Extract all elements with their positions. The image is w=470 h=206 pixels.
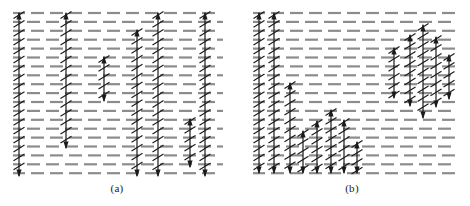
panel-b	[252, 0, 458, 206]
panel-b-caption: (b)	[332, 182, 372, 194]
arrow	[99, 56, 110, 103]
lattice-grid	[13, 13, 223, 173]
arrow	[185, 118, 196, 169]
arrow	[14, 12, 25, 178]
arrow	[339, 119, 350, 175]
dislocation-arrows	[14, 12, 211, 178]
arrow	[153, 12, 164, 178]
panel-a-canvas	[12, 0, 224, 206]
panel-a-caption: (a)	[97, 182, 137, 194]
panel-a	[12, 0, 224, 206]
figure-container: (a) (b)	[0, 0, 470, 206]
arrow	[200, 12, 211, 178]
arrow	[431, 36, 442, 109]
arrow	[298, 130, 309, 175]
arrow	[389, 47, 400, 100]
arrow	[61, 12, 72, 150]
lattice-grid	[253, 13, 455, 173]
panel-b-canvas	[252, 0, 458, 206]
arrow	[418, 24, 429, 120]
arrow	[405, 34, 416, 108]
